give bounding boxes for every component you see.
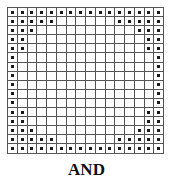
grid-cell <box>47 126 57 135</box>
grid-cell <box>106 26 116 35</box>
grid-cell <box>67 135 77 144</box>
grid-cell <box>18 81 28 90</box>
grid-cell <box>96 26 106 35</box>
grid-cell-filled <box>145 117 155 126</box>
grid-cell <box>86 90 96 99</box>
grid-cell-filled <box>18 117 28 126</box>
grid-cell-filled <box>154 117 164 126</box>
grid-cell-filled <box>18 17 28 26</box>
grid-cell <box>125 117 135 126</box>
grid-cell-filled <box>8 135 18 144</box>
grid-cell <box>86 17 96 26</box>
grid-cell <box>135 81 145 90</box>
grid-cell <box>115 90 125 99</box>
grid-cell-filled <box>145 144 155 153</box>
grid-cell-filled <box>47 8 57 17</box>
figure-label: AND <box>0 160 173 180</box>
grid-cell <box>67 117 77 126</box>
grid-cell-filled <box>18 35 28 44</box>
grid-cell-filled <box>8 35 18 44</box>
grid-cell <box>135 99 145 108</box>
grid-cell <box>67 44 77 53</box>
grid-cell <box>18 90 28 99</box>
grid-cell-filled <box>28 144 38 153</box>
grid-cell <box>76 35 86 44</box>
grid-cell <box>37 72 47 81</box>
grid-cell-filled <box>76 144 86 153</box>
grid-cell-filled <box>37 17 47 26</box>
grid-cell <box>76 117 86 126</box>
grid-cell <box>96 108 106 117</box>
grid-cell <box>96 81 106 90</box>
grid-cell <box>135 90 145 99</box>
grid-cell-filled <box>8 72 18 81</box>
grid-cell <box>106 81 116 90</box>
grid-cell <box>57 35 67 44</box>
grid-cell-filled <box>106 144 116 153</box>
grid-cell <box>47 53 57 62</box>
grid-cell-filled <box>67 8 77 17</box>
grid-cell <box>37 108 47 117</box>
grid-cell <box>28 99 38 108</box>
grid-cell <box>145 99 155 108</box>
grid-cell-filled <box>96 144 106 153</box>
grid-cell <box>115 117 125 126</box>
grid-cell <box>135 72 145 81</box>
grid-cell <box>125 81 135 90</box>
grid-cell <box>135 108 145 117</box>
grid-cell <box>145 90 155 99</box>
grid-cell <box>125 126 135 135</box>
grid-cell <box>96 17 106 26</box>
grid-cell <box>37 63 47 72</box>
grid-cell-filled <box>145 8 155 17</box>
grid-cell <box>125 72 135 81</box>
grid-cell <box>57 99 67 108</box>
grid-cell-filled <box>135 26 145 35</box>
grid-cell <box>115 99 125 108</box>
grid-cell <box>67 126 77 135</box>
grid-cell <box>96 90 106 99</box>
grid-cell-filled <box>135 126 145 135</box>
grid-cell <box>86 26 96 35</box>
grid-cell <box>96 117 106 126</box>
grid-cell <box>57 17 67 26</box>
grid-cell-filled <box>154 35 164 44</box>
grid-cell-filled <box>145 17 155 26</box>
grid-cell <box>76 63 86 72</box>
grid-cell <box>76 81 86 90</box>
grid-cell <box>125 44 135 53</box>
grid-cell <box>67 72 77 81</box>
grid-cell-filled <box>135 135 145 144</box>
grid-cell-filled <box>154 26 164 35</box>
grid-cell-filled <box>115 17 125 26</box>
grid-cell-filled <box>8 63 18 72</box>
grid-cell-filled <box>37 144 47 153</box>
grid-cell <box>57 108 67 117</box>
grid-cell <box>67 26 77 35</box>
grid-cell <box>106 63 116 72</box>
grid-cell <box>57 90 67 99</box>
grid-cell-filled <box>8 144 18 153</box>
grid-cell <box>125 63 135 72</box>
grid-cell <box>106 44 116 53</box>
grid-cell <box>76 72 86 81</box>
grid-cell-filled <box>18 126 28 135</box>
grid-cell-filled <box>8 126 18 135</box>
grid-cell <box>18 72 28 81</box>
grid-cell-filled <box>8 17 18 26</box>
grid-cell-filled <box>28 135 38 144</box>
grid-cell <box>135 44 145 53</box>
grid-cell <box>18 53 28 62</box>
grid-cell-filled <box>135 144 145 153</box>
dot-grid <box>7 7 164 154</box>
grid-cell-filled <box>125 135 135 144</box>
grid-cell-filled <box>106 8 116 17</box>
grid-cell <box>145 72 155 81</box>
grid-cell-filled <box>76 8 86 17</box>
grid-cell-filled <box>28 26 38 35</box>
grid-cell <box>37 126 47 135</box>
grid-cell <box>67 17 77 26</box>
grid-cell-filled <box>145 26 155 35</box>
grid-cell <box>115 72 125 81</box>
grid-cell <box>135 63 145 72</box>
